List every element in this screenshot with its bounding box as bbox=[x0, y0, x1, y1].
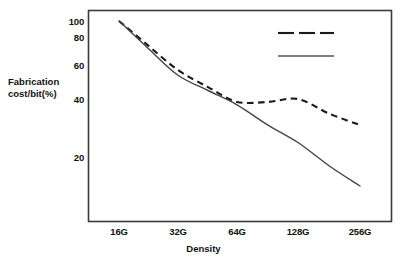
chart-figure: 100 80 60 40 20 Fabrication cost/bit(%) … bbox=[0, 0, 407, 267]
plot-area-border bbox=[89, 11, 392, 222]
plot-canvas bbox=[0, 0, 407, 267]
